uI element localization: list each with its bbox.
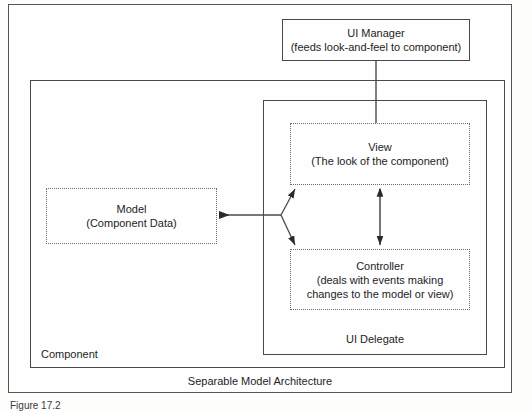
ui-manager-box: UI Manager (feeds look-and-feel to compo… [282,19,470,61]
controller-box: Controller (deals with events making cha… [290,249,470,310]
model-box: Model (Component Data) [46,188,217,244]
component-label: Component [41,348,98,360]
view-box: View (The look of the component) [290,123,470,185]
model-label: Model (Component Data) [47,202,216,230]
separable-model-architecture-figure: UI Manager (feeds look-and-feel to compo… [0,0,532,411]
controller-label: Controller (deals with events making cha… [291,259,469,301]
figure-number-caption: Figure 17.2 [10,400,61,411]
ui-manager-label: UI Manager (feeds look-and-feel to compo… [283,26,469,54]
architecture-caption: Separable Model Architecture [8,375,512,387]
view-label: View (The look of the component) [291,140,469,168]
ui-delegate-label: UI Delegate [264,333,486,345]
